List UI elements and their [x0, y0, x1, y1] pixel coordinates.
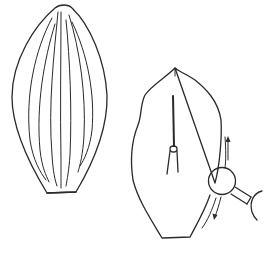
- vein-7: [72, 22, 93, 166]
- rotation-arrow-down-icon: [213, 214, 218, 221]
- vein-5: [66, 20, 71, 186]
- edge-groove-lower: [202, 198, 216, 228]
- pin-socket-leg-left: [167, 151, 170, 174]
- left-leaf-base: [47, 192, 76, 193]
- pin-socket-leg-right: [177, 151, 178, 172]
- leaf-with-pin-and-rotor: [132, 68, 262, 238]
- connector-bar-end: [247, 197, 251, 204]
- central-pin: [173, 96, 174, 146]
- pin-socket: [170, 146, 177, 152]
- rotor-circle: [209, 168, 236, 195]
- left-leaf-outline: [12, 5, 107, 193]
- connector-bar-top: [235, 187, 251, 197]
- diagram-canvas: [0, 0, 278, 260]
- rotation-arrow-up-icon: [226, 136, 231, 142]
- rotation-arrow-down-shaft: [215, 197, 221, 217]
- edge-groove-upper: [225, 137, 226, 168]
- vein-6: [69, 15, 84, 172]
- right-leaf-outline: [132, 68, 222, 238]
- vein-3: [51, 12, 58, 186]
- veined-leaf: [12, 5, 107, 193]
- sketch-drawing: [0, 0, 278, 260]
- connector-bar-bottom: [231, 194, 247, 204]
- partial-circle: [251, 191, 262, 220]
